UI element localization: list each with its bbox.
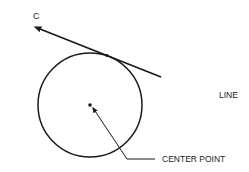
line-label: LINE <box>219 90 238 100</box>
corner-label: C <box>33 11 40 21</box>
center-point-dot <box>88 103 92 107</box>
center-point-leader <box>95 111 155 159</box>
tangent-point <box>105 54 108 57</box>
center-point-label: CENTER POINT <box>162 154 225 164</box>
tangent-line-diagram: C LINE CENTER POINT <box>0 0 249 172</box>
tangent-line <box>40 29 161 77</box>
